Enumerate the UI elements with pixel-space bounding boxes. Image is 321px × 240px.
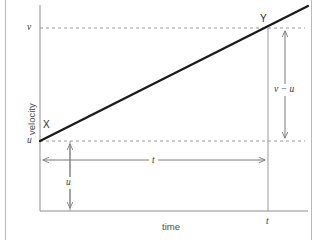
annotation-initial-u: u: [64, 177, 73, 189]
x-axis-title: time: [162, 222, 180, 232]
y-tick-label-v: v: [27, 23, 31, 33]
y-axis-title: velocity: [27, 103, 37, 135]
annotation-duration-t: t: [149, 155, 158, 167]
point-label-y: Y: [260, 14, 267, 24]
y-tick-label-u: u: [27, 136, 32, 146]
annotation-delta-v: v − u: [272, 84, 296, 96]
x-tick-label-t: t: [266, 217, 269, 227]
figure-container: v u t X Y v − u u t velocity time: [0, 0, 321, 240]
point-label-x: X: [43, 120, 50, 130]
